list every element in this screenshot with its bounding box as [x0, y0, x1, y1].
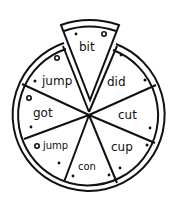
topping-icon: [58, 162, 61, 165]
slice-word-got: got: [33, 106, 53, 120]
slice-word-jump-lower: jump: [42, 140, 68, 151]
topping-icon: [55, 56, 59, 60]
topping-icon: [72, 175, 75, 178]
topping-icon: [35, 144, 39, 148]
topping-icon: [30, 126, 33, 129]
slice-word-cup: cup: [111, 140, 133, 154]
slice-word-did: did: [107, 75, 126, 89]
slice-word-bit: bit: [79, 40, 95, 54]
slice-word-cut: cut: [118, 108, 137, 122]
topping-icon: [108, 174, 111, 177]
removed-slice-crust: [64, 27, 116, 32]
topping-icon: [27, 96, 31, 100]
topping-icon: [146, 144, 149, 147]
topping-icon: [75, 33, 78, 36]
pizza-diagram: bit did cut cup con jump got jump: [0, 0, 174, 207]
topping-icon: [120, 54, 123, 57]
topping-icon: [102, 32, 106, 36]
slice-word-jump-upper: jump: [41, 74, 72, 88]
topping-icon: [144, 79, 147, 82]
slice-word-con: con: [78, 161, 96, 172]
topping-icon: [149, 127, 152, 130]
topping-icon: [119, 167, 122, 170]
topping-icon: [34, 80, 37, 83]
